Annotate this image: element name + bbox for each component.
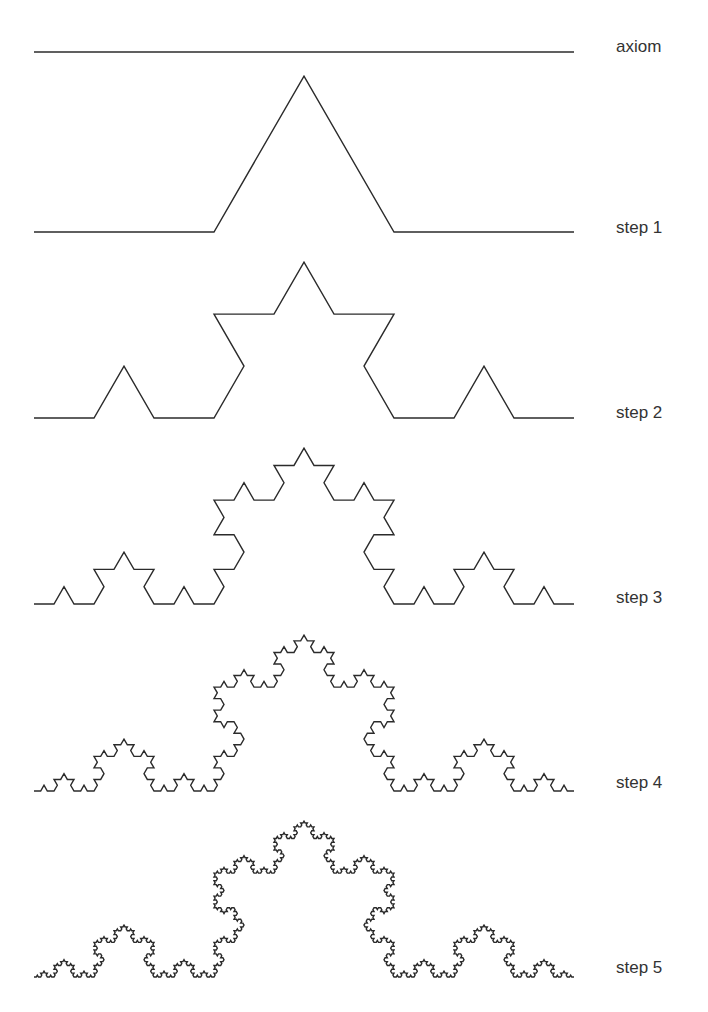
row-step-4: step 4 xyxy=(34,635,662,792)
row-step-5: step 5 xyxy=(34,821,662,977)
koch-curve-step-4 xyxy=(34,635,574,791)
row-step-3: step 3 xyxy=(34,448,662,607)
label-step-2: step 2 xyxy=(616,403,662,422)
label-axiom: axiom xyxy=(616,37,661,56)
koch-curve-diagram: axiom step 1 step 2 step 3 step 4 step 5 xyxy=(0,0,708,1012)
row-step-1: step 1 xyxy=(34,76,662,237)
koch-curve-step-2 xyxy=(34,262,574,418)
label-step-3: step 3 xyxy=(616,588,662,607)
label-step-1: step 1 xyxy=(616,218,662,237)
row-axiom: axiom xyxy=(34,37,661,56)
koch-curve-step-5 xyxy=(34,821,574,977)
koch-curve-step-1 xyxy=(34,76,574,232)
label-step-4: step 4 xyxy=(616,773,662,792)
label-step-5: step 5 xyxy=(616,958,662,977)
koch-curve-step-3 xyxy=(34,448,574,604)
row-step-2: step 2 xyxy=(34,262,662,422)
